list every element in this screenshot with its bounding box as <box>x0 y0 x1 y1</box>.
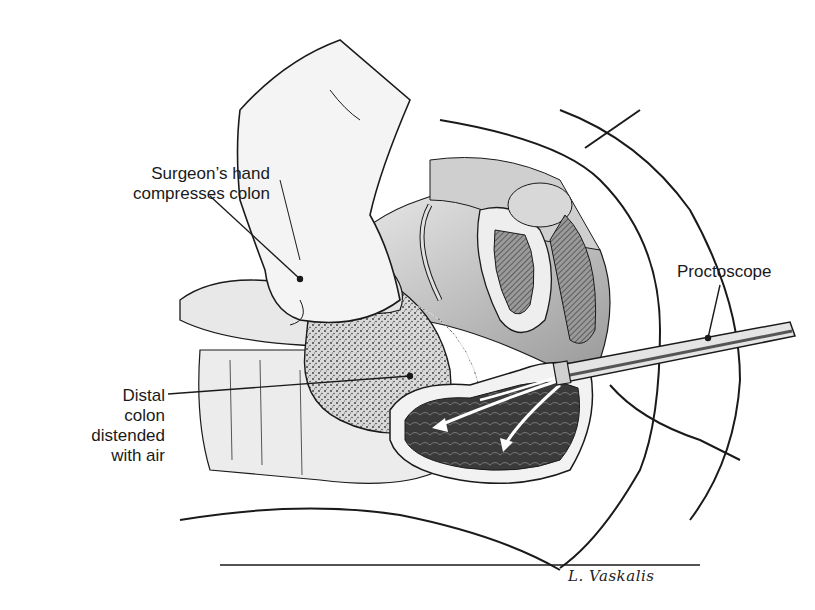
leader-proctoscope <box>708 285 720 338</box>
label-proctoscope: Proctoscope <box>677 262 772 282</box>
label-hand-line-1: Surgeon’s hand <box>133 164 270 184</box>
surgical-illustration <box>0 0 815 610</box>
label-colon-line-4: with air <box>91 446 165 466</box>
label-colon-line-3: distended <box>91 426 165 446</box>
label-hand-line-2: compresses colon <box>133 184 270 204</box>
label-proctoscope-text: Proctoscope <box>677 262 772 282</box>
label-colon-line-2: colon <box>91 406 165 426</box>
label-colon-line-1: Distal <box>91 386 165 406</box>
artist-signature: L. Vaskalis <box>568 567 654 585</box>
label-surgeons-hand: Surgeon’s hand compresses colon <box>133 164 270 204</box>
label-distal-colon: Distal colon distended with air <box>91 386 165 466</box>
